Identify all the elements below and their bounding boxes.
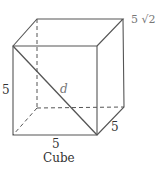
right-face-edges (97, 19, 124, 135)
space-diagonal (13, 46, 97, 135)
cube-diagram: 5 √2 d 5 5 5 Cube (0, 0, 161, 176)
figure-caption: Cube (43, 151, 75, 165)
height-label: 5 (2, 83, 10, 97)
depth-label: 5 (111, 120, 119, 134)
hidden-edge-back-bottom (37, 107, 124, 108)
top-face-edges (13, 19, 123, 46)
width-label: 5 (52, 137, 60, 151)
cube-figure: 5 √2 d 5 5 5 Cube (0, 0, 161, 176)
face-diagonal-label: 5 √2 (131, 13, 156, 26)
hidden-edge-depth (13, 108, 37, 135)
diagonal-label: d (60, 82, 68, 96)
